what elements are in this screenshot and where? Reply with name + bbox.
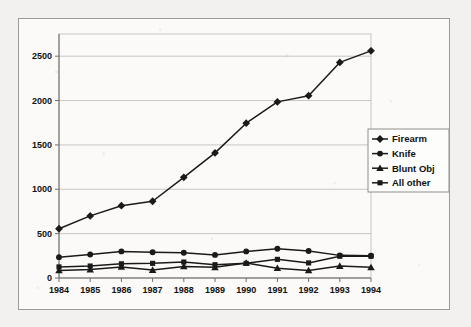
x-tick-label: 1984: [49, 285, 69, 295]
y-tick-label: 500: [37, 229, 52, 239]
series-firearm: [55, 47, 375, 233]
x-axis-tick-labels: 1984198519861987198819891990199119921993…: [49, 278, 381, 295]
data-point-diamond: [367, 47, 375, 55]
x-tick-label: 1991: [267, 285, 287, 295]
data-point-square: [150, 261, 155, 266]
x-tick-label: 1985: [80, 285, 100, 295]
data-point-diamond: [117, 202, 125, 210]
legend-label: Firearm: [392, 133, 427, 144]
data-point-circle: [274, 246, 280, 252]
x-tick-label: 1993: [330, 285, 350, 295]
data-point-circle: [306, 248, 312, 254]
y-tick-label: 1500: [32, 140, 52, 150]
x-tick-label: 1987: [143, 285, 163, 295]
legend-label: All other: [392, 177, 431, 188]
legend-label: Blunt Obj: [392, 163, 435, 174]
data-point-circle: [150, 249, 156, 255]
data-point-square: [56, 264, 61, 269]
data-point-square: [275, 257, 280, 262]
legend-marker-circle: [377, 151, 383, 157]
data-point-diamond: [55, 225, 63, 233]
data-series-group: [55, 47, 375, 273]
legend-label: Knife: [392, 148, 416, 159]
data-point-square: [368, 254, 373, 259]
gridlines-group: [59, 56, 371, 278]
chart-frame: 05001000150020002500 1984198519861987198…: [18, 18, 450, 310]
y-tick-label: 0: [47, 273, 52, 283]
data-point-square: [181, 259, 186, 264]
x-tick-label: 1989: [205, 285, 225, 295]
data-point-diamond: [86, 212, 94, 220]
data-point-circle: [56, 254, 62, 260]
data-point-square: [119, 261, 124, 266]
data-point-square: [337, 254, 342, 259]
data-point-square: [306, 260, 311, 265]
x-tick-label: 1992: [299, 285, 319, 295]
x-tick-label: 1988: [174, 285, 194, 295]
data-point-square: [88, 263, 93, 268]
y-tick-label: 1000: [32, 184, 52, 194]
legend-marker-square: [377, 180, 382, 185]
data-point-circle: [212, 252, 218, 258]
series-line: [59, 51, 371, 229]
data-point-square: [244, 261, 249, 266]
y-tick-label: 2500: [32, 51, 52, 61]
series-knife: [56, 246, 374, 260]
chart-legend: FirearmKnifeBlunt ObjAll other: [368, 129, 449, 192]
x-tick-label: 1986: [111, 285, 131, 295]
x-tick-label: 1990: [236, 285, 256, 295]
y-axis-tick-labels: 05001000150020002500: [32, 51, 59, 283]
data-point-circle: [181, 250, 187, 256]
data-point-circle: [87, 252, 93, 258]
data-point-square: [212, 262, 217, 267]
line-chart: 05001000150020002500 1984198519861987198…: [19, 19, 449, 309]
y-tick-label: 2000: [32, 96, 52, 106]
data-point-circle: [243, 248, 249, 254]
data-point-circle: [118, 248, 124, 254]
x-tick-label: 1994: [361, 285, 381, 295]
